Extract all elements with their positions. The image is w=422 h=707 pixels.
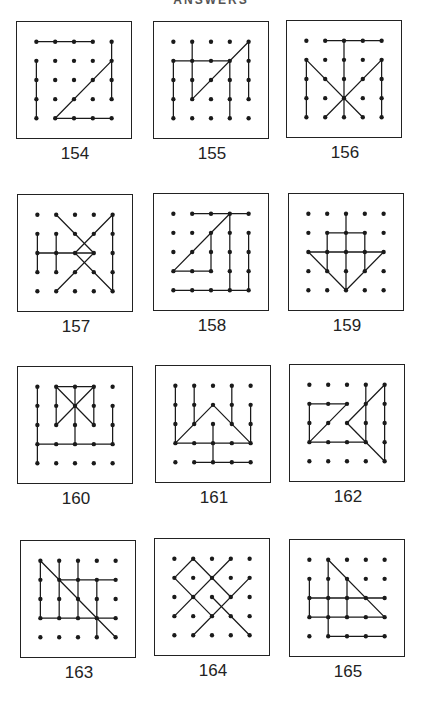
grid-dot: [35, 270, 39, 274]
grid-dot: [173, 441, 177, 445]
grid-dot: [171, 250, 175, 254]
grid-dot: [209, 78, 213, 82]
grid-dot: [382, 596, 386, 600]
grid-dot: [382, 459, 386, 463]
grid-dot: [306, 212, 310, 216]
grid-dot: [173, 384, 177, 388]
grid-dot: [361, 96, 365, 100]
grid-dot: [209, 59, 213, 63]
grid-dot: [307, 402, 311, 406]
grid-dot: [72, 40, 76, 44]
grid-dot: [38, 578, 42, 582]
line-segment: [55, 61, 111, 118]
grid-dot: [307, 577, 311, 581]
dot-grid-box: [16, 21, 132, 139]
grid-dot: [54, 423, 58, 427]
grid-dot: [344, 231, 348, 235]
puzzle-164: 164: [154, 538, 272, 681]
grid-dot: [35, 404, 39, 408]
grid-dot: [230, 441, 234, 445]
grid-dot: [95, 635, 99, 639]
grid-dot: [364, 440, 368, 444]
grid-dot: [113, 559, 117, 563]
grid-dot: [190, 250, 194, 254]
grid-dot: [113, 597, 117, 601]
grid-dot: [306, 288, 310, 292]
grid-dot: [307, 615, 311, 619]
grid-dot: [344, 269, 348, 273]
grid-dot: [172, 595, 176, 599]
grid-dot: [228, 40, 232, 44]
grid-dot: [113, 578, 117, 582]
grid-dot: [171, 288, 175, 292]
line-segment: [306, 60, 362, 117]
grid-dot: [210, 595, 214, 599]
grid-dot: [345, 634, 349, 638]
grid-dot: [76, 635, 80, 639]
grid-dot: [229, 576, 233, 580]
grid-dot: [381, 288, 385, 292]
grid-dot: [248, 384, 252, 388]
grid-dot: [190, 116, 194, 120]
line-segment: [192, 42, 248, 99]
puzzle-156: 156: [286, 20, 404, 163]
grid-dot: [171, 212, 175, 216]
grid-dot: [95, 559, 99, 563]
grid-dot: [172, 633, 176, 637]
puzzle-number: 162: [289, 487, 407, 507]
grid-dot: [73, 289, 77, 293]
grid-dot: [345, 383, 349, 387]
grid-dot: [228, 116, 232, 120]
grid-dot: [307, 596, 311, 600]
grid-dot: [190, 59, 194, 63]
dot-grid-drawing: [18, 367, 132, 483]
grid-dot: [211, 441, 215, 445]
grid-dot: [228, 59, 232, 63]
grid-dot: [379, 77, 383, 81]
grid-dot: [73, 251, 77, 255]
dot-grid-box: [153, 21, 269, 139]
grid-dot: [364, 615, 368, 619]
grid-dot: [173, 422, 177, 426]
line-segment: [328, 560, 384, 617]
grid-dot: [364, 421, 368, 425]
grid-dot: [326, 421, 330, 425]
grid-dot: [326, 615, 330, 619]
grid-dot: [57, 635, 61, 639]
grid-dot: [72, 116, 76, 120]
grid-dot: [209, 116, 213, 120]
grid-dot: [76, 578, 80, 582]
puzzle-number: 161: [155, 488, 273, 508]
grid-dot: [173, 403, 177, 407]
grid-dot: [91, 78, 95, 82]
grid-dot: [173, 460, 177, 464]
grid-dot: [361, 115, 365, 119]
grid-dot: [364, 459, 368, 463]
grid-dot: [171, 116, 175, 120]
grid-dot: [110, 232, 114, 236]
grid-dot: [190, 40, 194, 44]
dot-grid-drawing: [156, 366, 270, 482]
grid-dot: [363, 212, 367, 216]
line-segment: [325, 60, 381, 117]
dot-grid-box: [289, 539, 405, 657]
grid-dot: [246, 97, 250, 101]
grid-dot: [228, 212, 232, 216]
grid-dot: [54, 232, 58, 236]
grid-dot: [192, 422, 196, 426]
grid-dot: [35, 232, 39, 236]
grid-dot: [304, 77, 308, 81]
grid-dot: [92, 270, 96, 274]
puzzle-159: 159: [288, 193, 406, 336]
grid-dot: [306, 250, 310, 254]
grid-dot: [323, 96, 327, 100]
grid-dot: [325, 231, 329, 235]
grid-dot: [342, 96, 346, 100]
grid-dot: [381, 231, 385, 235]
grid-dot: [34, 116, 38, 120]
puzzle-155: 155: [153, 21, 271, 164]
grid-dot: [361, 58, 365, 62]
grid-dot: [91, 97, 95, 101]
grid-dot: [364, 577, 368, 581]
dot-grid-drawing: [289, 194, 403, 310]
